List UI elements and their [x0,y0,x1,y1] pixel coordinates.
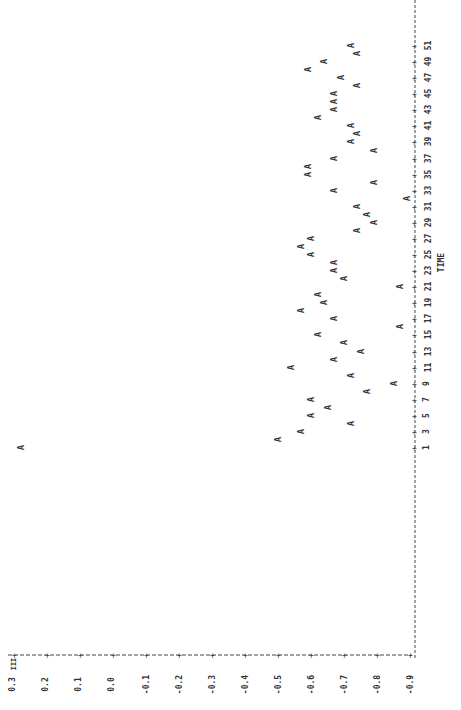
time-tick-label: 41 [424,121,433,131]
time-tick-label: 5 [422,413,431,418]
value-tick-label: -0.2 [175,675,184,694]
data-point-marker: A [363,212,372,217]
data-point-marker: A [330,99,339,104]
time-tick-label: 23 [424,266,433,276]
data-point-marker: A [370,147,379,152]
svg-text:+: + [412,138,417,147]
time-tick-label: 1 [422,445,431,450]
svg-text:+: + [412,444,417,453]
data-point-marker: A [340,340,349,345]
svg-text:+: + [412,122,417,131]
time-tick-label: 21 [424,282,433,292]
data-point-marker: A [337,75,346,80]
data-point-marker: A [353,131,362,136]
data-point-marker: A [347,372,356,377]
time-tick-label: 37 [424,153,433,163]
svg-text:+: + [412,428,417,437]
data-point-marker: A [330,155,339,160]
data-point-marker: A [307,413,316,418]
svg-text:+: + [276,651,281,660]
data-point-marker: A [396,284,405,289]
value-axis-top-label: III [10,658,18,671]
svg-text:+: + [177,651,182,660]
svg-text:+: + [412,380,417,389]
time-tick-label: 33 [424,185,433,195]
data-point-marker: A [307,236,316,241]
time-tick-label: 29 [424,218,433,228]
data-point-marker: A [297,429,306,434]
data-point-marker: A [297,308,306,313]
svg-text:+: + [412,58,417,67]
svg-text:+: + [412,251,417,260]
svg-text:+: + [210,651,215,660]
data-point-marker: A [330,91,339,96]
time-tick-label: 11 [424,362,433,372]
svg-text:+: + [412,155,417,164]
svg-text:+: + [243,651,248,660]
value-tick-label: -0.4 [241,675,250,694]
data-point-marker: A [370,220,379,225]
svg-text:+: + [412,267,417,276]
time-axis-title: TIME [437,253,446,272]
chart-axes: +++++++++++++ ++++++++++++++++++++++++++ [0,0,461,710]
svg-text:+: + [45,651,50,660]
svg-text:+: + [375,651,380,660]
data-point-marker: A [17,445,26,450]
svg-text:+: + [412,364,417,373]
time-tick-label: 13 [424,346,433,356]
data-point-marker: A [353,83,362,88]
svg-text:+: + [412,42,417,51]
data-point-marker: A [353,51,362,56]
data-point-marker: A [370,179,379,184]
value-tick-label: 0.3 [8,677,17,691]
value-tick-label: -0.6 [307,675,316,694]
data-point-marker: A [314,115,323,120]
svg-text:+: + [412,203,417,212]
svg-text:+: + [342,651,347,660]
data-point-marker: A [304,171,313,176]
data-point-marker: A [390,380,399,385]
value-tick-label: -0.3 [208,675,217,694]
data-point-marker: A [347,123,356,128]
data-point-marker: A [396,324,405,329]
time-tick-label: 49 [424,57,433,67]
svg-text:+: + [78,651,83,660]
data-point-marker: A [330,356,339,361]
value-tick-label: -0.8 [373,675,382,694]
time-tick-label: 9 [422,381,431,386]
time-tick-label: 43 [424,105,433,115]
data-point-marker: A [307,252,316,257]
value-tick-label: -0.7 [340,675,349,694]
data-point-marker: A [363,389,372,394]
data-point-marker: A [403,196,412,201]
data-point-marker: A [314,292,323,297]
data-point-marker: A [347,43,356,48]
data-point-marker: A [314,332,323,337]
data-point-marker: A [304,163,313,168]
svg-text:+: + [412,331,417,340]
time-tick-label: 45 [424,89,433,99]
value-tick-label: -0.5 [274,675,283,694]
svg-text:+: + [408,651,413,660]
time-tick-label: 39 [424,137,433,147]
svg-text:+: + [412,219,417,228]
svg-text:+: + [412,412,417,421]
data-point-marker: A [330,268,339,273]
svg-text:+: + [144,651,149,660]
time-tick-label: 17 [424,314,433,324]
time-tick-label: 35 [424,169,433,179]
svg-text:+: + [412,235,417,244]
value-tick-label: -0.9 [406,675,415,694]
time-tick-label: 31 [424,201,433,211]
time-tick-label: 25 [424,250,433,260]
data-point-marker: A [307,397,316,402]
data-point-marker: A [297,244,306,249]
data-point-marker: A [330,107,339,112]
svg-text:+: + [412,396,417,405]
data-point-marker: A [320,300,329,305]
svg-text:+: + [412,299,417,308]
svg-text:+: + [412,90,417,99]
data-point-marker: A [330,188,339,193]
value-tick-label: -0.1 [142,675,151,694]
data-point-marker: A [347,421,356,426]
